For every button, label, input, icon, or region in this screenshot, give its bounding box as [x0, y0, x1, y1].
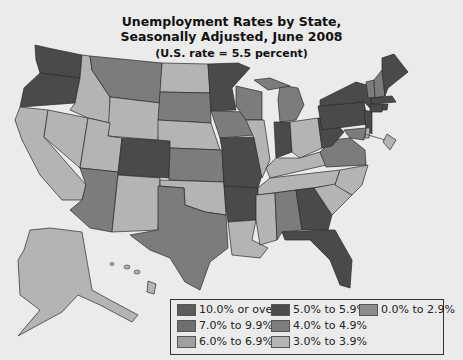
- legend-label: 4.0% to 4.9%: [293, 319, 367, 332]
- legend-swatch: [177, 304, 196, 316]
- legend-item-3-to-3.9: 3.0% to 3.9%: [271, 335, 367, 348]
- state-HI-2: [124, 265, 130, 269]
- state-CO: [118, 138, 170, 178]
- legend-swatch: [359, 304, 378, 316]
- state-HI-big: [147, 281, 156, 294]
- legend-item-0-to-2.9: 0.0% to 2.9%: [359, 303, 455, 316]
- state-KS: [169, 148, 224, 182]
- state-DE: [365, 128, 370, 138]
- state-ME: [382, 54, 408, 96]
- state-WY: [108, 97, 160, 140]
- state-MS: [256, 193, 277, 245]
- legend-label: 0.0% to 2.9%: [381, 303, 455, 316]
- state-OH: [290, 118, 322, 158]
- state-CT: [370, 104, 383, 112]
- state-VT: [366, 80, 375, 98]
- legend-swatch: [177, 336, 196, 348]
- legend-item-6-to-6.9: 6.0% to 6.9%: [177, 335, 273, 348]
- legend-label: 7.0% to 9.9%: [199, 319, 273, 332]
- state-PA: [318, 102, 368, 130]
- legend-label: 3.0% to 3.9%: [293, 335, 367, 348]
- state-SD: [158, 92, 211, 123]
- legend-item-7-to-9.9: 7.0% to 9.9%: [177, 319, 273, 332]
- state-HI-3: [134, 270, 140, 274]
- legend-label: 5.0% to 5.9%: [293, 303, 367, 316]
- legend-swatch: [271, 304, 290, 316]
- state-NM: [112, 175, 160, 232]
- state-HI-1: [110, 263, 114, 266]
- legend: 10.0% or over 5.0% to 5.9% 0.0% to 2.9% …: [170, 299, 444, 355]
- legend-label: 6.0% to 6.9%: [199, 335, 273, 348]
- state-MI: [278, 85, 304, 122]
- state-AK: [18, 228, 138, 336]
- state-FL: [282, 230, 352, 288]
- state-ND: [160, 63, 210, 93]
- state-AR: [224, 186, 258, 222]
- legend-item-4-to-4.9: 4.0% to 4.9%: [271, 319, 367, 332]
- state-IN: [274, 122, 292, 158]
- state-RI: [382, 104, 388, 110]
- legend-item-5-to-5.9: 5.0% to 5.9%: [271, 303, 367, 316]
- legend-swatch: [271, 336, 290, 348]
- legend-label: 10.0% or over: [199, 303, 277, 316]
- state-OR: [20, 73, 80, 107]
- legend-swatch: [177, 320, 196, 332]
- state-DC-inset: [383, 134, 396, 150]
- legend-item-10-or-over: 10.0% or over: [177, 303, 277, 316]
- legend-swatch: [271, 320, 290, 332]
